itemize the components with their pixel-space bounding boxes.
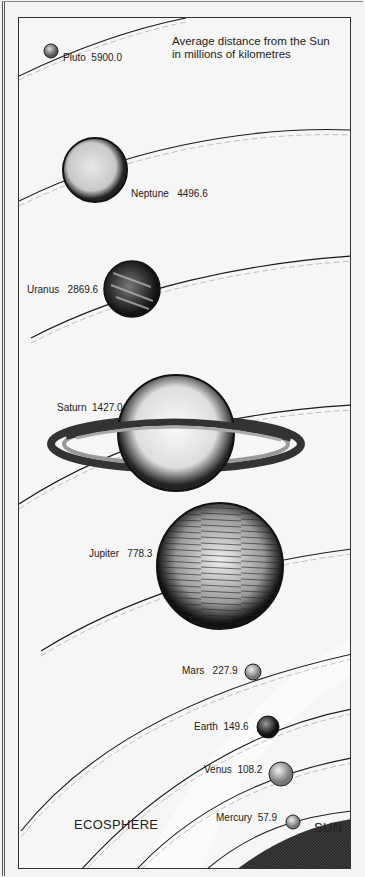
label-mars: Mars 227.9 bbox=[182, 665, 238, 676]
diagram-frame: Average distance from the Sun in million… bbox=[18, 17, 351, 869]
label-neptune: Neptune 4496.6 bbox=[131, 188, 208, 199]
caption-line-2: in millions of kilometres bbox=[172, 48, 330, 61]
solar-system-illustration bbox=[19, 18, 351, 869]
label-uranus: Uranus 2869.6 bbox=[27, 284, 98, 295]
label-mercury: Mercury 57.9 bbox=[216, 812, 277, 823]
caption: Average distance from the Sun in million… bbox=[172, 35, 330, 61]
sun-label: SUN bbox=[314, 820, 342, 835]
label-pluto: Pluto 5900.0 bbox=[63, 52, 122, 63]
label-saturn: Saturn 1427.0 bbox=[57, 402, 123, 413]
ecosphere-label: ECOSPHERE bbox=[74, 817, 158, 832]
label-jupiter: Jupiter 778.3 bbox=[89, 548, 152, 559]
label-venus: Venus 108.2 bbox=[204, 764, 262, 775]
label-earth: Earth 149.6 bbox=[194, 721, 249, 732]
caption-line-1: Average distance from the Sun bbox=[172, 35, 330, 48]
